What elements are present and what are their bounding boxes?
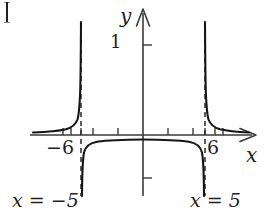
asymptote-right-label: x = 5 bbox=[190, 191, 241, 210]
x-tick-label-six: 6 bbox=[207, 138, 219, 157]
axes-group bbox=[30, 9, 256, 196]
curve-left-branch bbox=[33, 22, 81, 133]
x-tick-label-negative-six: −6 bbox=[46, 138, 74, 157]
y-axis-label: y bbox=[120, 6, 131, 26]
asymptote-left-label: x = −5 bbox=[12, 191, 79, 210]
y-tick-label-one: 1 bbox=[110, 33, 121, 51]
y-axis-ticks bbox=[143, 45, 152, 178]
rational-function-graph bbox=[0, 0, 268, 219]
curve-right-branch bbox=[205, 22, 249, 133]
x-axis-label: x bbox=[246, 145, 257, 165]
curve-group bbox=[33, 22, 249, 196]
